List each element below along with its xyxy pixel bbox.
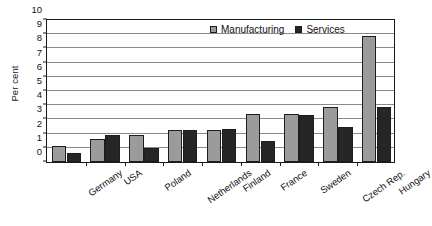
y-tick-label: 2 bbox=[37, 117, 42, 128]
y-tick-label: 7 bbox=[37, 46, 42, 57]
y-tick-label: 8 bbox=[37, 32, 42, 43]
bar-manufacturing-netherlands bbox=[168, 130, 183, 162]
legend-entry-services: Services bbox=[295, 24, 344, 35]
x-tick-mark bbox=[202, 162, 203, 166]
bar-group bbox=[357, 20, 396, 162]
x-tick-mark bbox=[241, 162, 242, 166]
bar-manufacturing-finland bbox=[207, 130, 222, 162]
bar-services-sweden bbox=[299, 115, 314, 162]
bars-layer bbox=[47, 20, 394, 162]
y-tick-label: 9 bbox=[37, 18, 42, 29]
x-label-poland: Poland bbox=[162, 167, 193, 193]
x-label-france: France bbox=[279, 167, 310, 193]
bar-group bbox=[47, 20, 86, 162]
bar-services-usa bbox=[105, 135, 120, 162]
x-tick-mark bbox=[125, 162, 126, 166]
bar-manufacturing-germany bbox=[52, 146, 67, 162]
bar-manufacturing-usa bbox=[90, 139, 105, 162]
bar-services-netherlands bbox=[183, 130, 198, 162]
bar-group bbox=[202, 20, 241, 162]
bar-group bbox=[241, 20, 280, 162]
bar-services-hungary bbox=[377, 107, 392, 162]
x-tick-mark bbox=[163, 162, 164, 166]
bar-services-france bbox=[261, 141, 276, 162]
bar-group bbox=[86, 20, 125, 162]
y-tick-label: 1 bbox=[37, 131, 42, 142]
y-tick-label: 6 bbox=[37, 60, 42, 71]
bar-services-czech-rep bbox=[338, 127, 353, 162]
bar-manufacturing-hungary bbox=[362, 36, 377, 162]
bar-manufacturing-sweden bbox=[284, 114, 299, 162]
bar-services-germany bbox=[67, 153, 82, 162]
x-tick-mark bbox=[280, 162, 281, 166]
bar-manufacturing-czech-rep bbox=[323, 107, 338, 162]
legend-swatch-services-icon bbox=[295, 26, 302, 33]
x-tick-mark bbox=[86, 162, 87, 166]
bar-manufacturing-france bbox=[246, 114, 261, 162]
x-label-sweden: Sweden bbox=[318, 167, 352, 196]
bar-group bbox=[163, 20, 202, 162]
x-tick-mark bbox=[357, 162, 358, 166]
bar-group bbox=[280, 20, 319, 162]
x-label-usa: USA bbox=[122, 167, 144, 187]
y-tick-label: 4 bbox=[37, 89, 42, 100]
x-label-germany: Germany bbox=[86, 167, 124, 198]
bar-group bbox=[318, 20, 357, 162]
plot-area: 012345678910 ManufacturingServices bbox=[46, 19, 395, 163]
legend-swatch-manufacturing-icon bbox=[210, 26, 217, 33]
y-tick-label: 5 bbox=[37, 75, 42, 86]
y-tick-label: 10 bbox=[31, 4, 42, 15]
y-axis-title: Per cent bbox=[9, 49, 20, 119]
bar-services-poland bbox=[144, 148, 159, 162]
chart-legend: ManufacturingServices bbox=[210, 24, 345, 35]
x-tick-mark bbox=[318, 162, 319, 166]
y-tick-label: 3 bbox=[37, 103, 42, 114]
y-tick-label: 0 bbox=[37, 146, 42, 157]
legend-label: Manufacturing bbox=[221, 24, 284, 35]
legend-label: Services bbox=[306, 24, 344, 35]
bar-manufacturing-poland bbox=[129, 135, 144, 162]
x-axis-labels: GermanyUSAPolandNetherlandsFinlandFrance… bbox=[46, 167, 395, 225]
legend-entry-manufacturing: Manufacturing bbox=[210, 24, 284, 35]
bar-group bbox=[125, 20, 164, 162]
bar-services-finland bbox=[222, 129, 237, 162]
